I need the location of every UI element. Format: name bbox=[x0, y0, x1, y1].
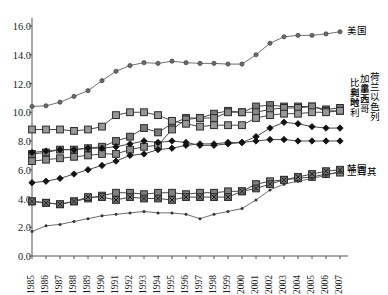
legend-label-israel: 以色列 bbox=[369, 92, 379, 122]
legend-label-austria: 奥地利 bbox=[349, 88, 359, 118]
axes bbox=[29, 18, 348, 259]
legend-label-us: 美国 bbox=[347, 26, 367, 36]
series-0 bbox=[30, 30, 342, 109]
line-chart: 0.02.04.06.08.010.012.014.016.0 19851986… bbox=[0, 0, 388, 295]
legend-label-mexico: 墨西哥 bbox=[359, 84, 369, 114]
legend-label-netherlands: 荷兰 bbox=[369, 72, 379, 92]
series-3 bbox=[29, 107, 344, 134]
legend-label-turkey: 土耳其 bbox=[347, 167, 377, 177]
plot-area bbox=[0, 0, 388, 295]
